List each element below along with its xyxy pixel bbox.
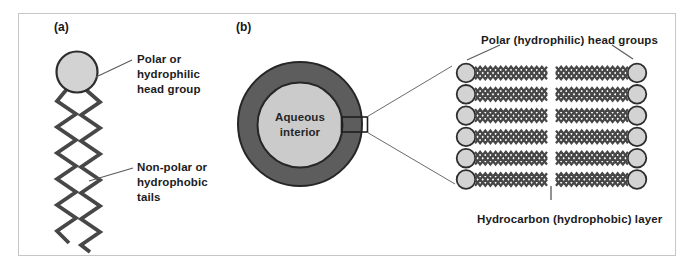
bilayer-row	[457, 106, 647, 125]
head-groups-label: Polar (hydrophilic) head groups	[481, 33, 658, 48]
bilayer-row	[457, 149, 647, 168]
hydrocarbon-layer-label: Hydrocarbon (hydrophobic) layer	[477, 212, 662, 227]
bilayer-row	[457, 85, 647, 104]
hydrophobic-tail-left	[57, 89, 76, 243]
phospholipid-monomer	[57, 52, 134, 253]
panel-a-tag: (a)	[54, 20, 69, 34]
hydrophobic-tail-right	[81, 89, 100, 252]
head-pointer-line	[96, 60, 132, 77]
aqueous-interior-label: Aqueous interior	[255, 110, 345, 140]
figure-canvas: (a) Polar or hydrophilic head group Non-…	[0, 0, 695, 276]
zoom-connector-bottom	[368, 133, 456, 185]
bilayer-row	[457, 64, 647, 83]
polar-head-circle	[57, 52, 98, 93]
panel-b-tag: (b)	[236, 20, 251, 34]
tail-pointer-line	[89, 168, 133, 181]
nonpolar-tails-label: Non-polar or hydrophobic tails	[137, 160, 232, 205]
polar-head-label: Polar or hydrophilic head group	[137, 52, 232, 97]
bilayer-detail	[457, 45, 647, 200]
bilayer-row	[457, 128, 647, 147]
zoom-connector-top	[368, 66, 453, 117]
